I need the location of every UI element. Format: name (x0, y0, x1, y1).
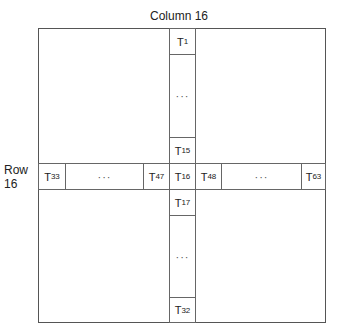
cell-label: T (175, 171, 182, 183)
cell-subscript: 1 (184, 37, 188, 46)
cell-ellipsis-column-top: ··· (169, 54, 196, 138)
ellipsis: ··· (255, 171, 269, 183)
cell-t17: T17 (169, 189, 196, 216)
cell-subscript: 63 (312, 172, 321, 181)
cell-label: T (175, 145, 182, 157)
cell-t15: T15 (169, 137, 196, 164)
cell-subscript: 16 (181, 172, 190, 181)
ellipsis: ··· (98, 171, 112, 183)
cell-label: T (201, 171, 208, 183)
cell-subscript: 48 (207, 172, 216, 181)
cell-label: T (175, 304, 182, 316)
cell-t63: T63 (301, 163, 326, 190)
row-label: Row 16 (4, 163, 28, 191)
cell-t32: T32 (169, 297, 196, 323)
cell-t47: T47 (143, 163, 170, 190)
cell-label: T (306, 171, 313, 183)
cell-t1: T1 (169, 28, 196, 55)
cell-ellipsis-column-bottom: ··· (169, 215, 196, 298)
row-label-line1: Row (4, 163, 28, 177)
cell-label: T (177, 36, 184, 48)
cell-t16-intersection: T16 (169, 163, 196, 190)
ellipsis: ··· (176, 251, 190, 263)
ellipsis: ··· (176, 90, 190, 102)
cell-t48: T48 (195, 163, 222, 190)
cell-ellipsis-row-left: ··· (65, 163, 144, 190)
cell-subscript: 17 (181, 198, 190, 207)
row-label-line2: 16 (4, 177, 28, 191)
cell-label: T (149, 171, 156, 183)
cell-ellipsis-row-right: ··· (221, 163, 302, 190)
cell-label: T (175, 197, 182, 209)
cell-subscript: 47 (155, 172, 164, 181)
cell-t33: T33 (38, 163, 66, 190)
cell-label: T (44, 171, 51, 183)
column-label: Column 16 (0, 9, 338, 23)
cell-subscript: 33 (51, 172, 60, 181)
cell-subscript: 32 (181, 306, 190, 315)
cell-subscript: 15 (181, 146, 190, 155)
